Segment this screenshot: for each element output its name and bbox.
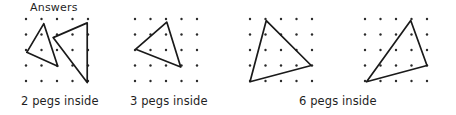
page-title: Answers bbox=[30, 1, 78, 14]
peg-dot bbox=[280, 64, 282, 66]
peg-dot bbox=[25, 64, 27, 66]
peg-dot bbox=[395, 64, 397, 66]
peg-dot bbox=[134, 33, 136, 35]
peg-dot bbox=[311, 18, 313, 20]
peg-dot bbox=[180, 33, 182, 35]
peg-dot bbox=[165, 18, 167, 20]
peg-dot bbox=[311, 33, 313, 35]
peg-dot bbox=[165, 64, 167, 66]
shapes-3 bbox=[250, 21, 311, 82]
shapes-4 bbox=[367, 21, 427, 82]
peg-dot bbox=[364, 49, 366, 51]
peg-dot bbox=[295, 80, 297, 82]
peg-dot bbox=[149, 64, 151, 66]
triangle bbox=[367, 21, 427, 82]
peg-dot bbox=[410, 33, 412, 35]
peg-dot bbox=[196, 64, 198, 66]
peg-dot bbox=[71, 80, 73, 82]
peg-dot bbox=[426, 49, 428, 51]
peg-dot bbox=[134, 80, 136, 82]
peg-dot bbox=[410, 80, 412, 82]
peg-dot bbox=[295, 64, 297, 66]
caption-pegs-inside-1: 2 pegs inside bbox=[21, 94, 99, 109]
peg-dot bbox=[40, 64, 42, 66]
caption-pegs-inside-2: 3 pegs inside bbox=[130, 94, 208, 109]
peg-dot bbox=[56, 80, 58, 82]
triangle bbox=[136, 22, 181, 67]
peg-board-1 bbox=[22, 14, 114, 90]
triangle-left bbox=[27, 24, 58, 67]
triangle bbox=[250, 21, 311, 82]
peg-dot bbox=[40, 80, 42, 82]
peg-dot bbox=[134, 64, 136, 66]
peg-board-1-canvas bbox=[22, 14, 114, 90]
peg-dot bbox=[311, 80, 313, 82]
peg-dot bbox=[149, 80, 151, 82]
peg-dot bbox=[71, 18, 73, 20]
peg-dot bbox=[196, 33, 198, 35]
peg-board-3 bbox=[246, 14, 338, 90]
caption-pegs-inside-3: 6 pegs inside bbox=[299, 94, 377, 109]
peg-dot bbox=[295, 18, 297, 20]
peg-dot bbox=[379, 80, 381, 82]
peg-dot bbox=[395, 33, 397, 35]
answers-worksheet: Answers 2 pegs inside 3 pegs inside 6 pe… bbox=[0, 0, 456, 115]
peg-dot bbox=[395, 80, 397, 82]
peg-dot bbox=[56, 18, 58, 20]
shapes-1 bbox=[27, 23, 87, 83]
peg-dot bbox=[71, 33, 73, 35]
peg-board-4-canvas bbox=[361, 14, 453, 90]
peg-dot bbox=[87, 18, 89, 20]
peg-dot bbox=[249, 49, 251, 51]
peg-dot bbox=[25, 18, 27, 20]
peg-dot bbox=[196, 80, 198, 82]
peg-dot bbox=[56, 49, 58, 51]
peg-board-4 bbox=[361, 14, 453, 90]
peg-dot bbox=[40, 49, 42, 51]
peg-board-3-canvas bbox=[246, 14, 338, 90]
peg-dot bbox=[280, 18, 282, 20]
peg-dot bbox=[264, 80, 266, 82]
peg-dot bbox=[426, 80, 428, 82]
peg-dot bbox=[149, 18, 151, 20]
peg-dot bbox=[134, 18, 136, 20]
peg-dot bbox=[280, 80, 282, 82]
peg-dot bbox=[311, 49, 313, 51]
peg-dot bbox=[196, 18, 198, 20]
peg-dot bbox=[280, 49, 282, 51]
peg-dot bbox=[364, 33, 366, 35]
peg-dot bbox=[426, 33, 428, 35]
peg-dot bbox=[410, 49, 412, 51]
peg-dot bbox=[40, 33, 42, 35]
peg-dot bbox=[295, 33, 297, 35]
triangle-right bbox=[53, 23, 87, 83]
peg-dot bbox=[180, 80, 182, 82]
peg-dot bbox=[364, 18, 366, 20]
peg-dot bbox=[25, 80, 27, 82]
peg-dot bbox=[379, 18, 381, 20]
shapes-2 bbox=[136, 22, 181, 67]
peg-dot bbox=[180, 49, 182, 51]
peg-dot bbox=[264, 64, 266, 66]
peg-dot bbox=[249, 18, 251, 20]
peg-dot bbox=[165, 49, 167, 51]
peg-dot bbox=[264, 33, 266, 35]
peg-dot bbox=[264, 49, 266, 51]
peg-dot bbox=[364, 64, 366, 66]
peg-board-2-canvas bbox=[131, 14, 223, 90]
peg-dot bbox=[249, 64, 251, 66]
peg-dot bbox=[196, 49, 198, 51]
peg-dot bbox=[379, 33, 381, 35]
peg-dot bbox=[40, 18, 42, 20]
peg-dot bbox=[180, 18, 182, 20]
peg-dot bbox=[71, 49, 73, 51]
peg-grid-2 bbox=[134, 18, 198, 82]
peg-dot bbox=[395, 49, 397, 51]
peg-dot bbox=[426, 18, 428, 20]
peg-dot bbox=[249, 33, 251, 35]
peg-board-2 bbox=[131, 14, 223, 90]
peg-dot bbox=[165, 33, 167, 35]
peg-dot bbox=[149, 49, 151, 51]
peg-dot bbox=[379, 49, 381, 51]
peg-dot bbox=[165, 80, 167, 82]
